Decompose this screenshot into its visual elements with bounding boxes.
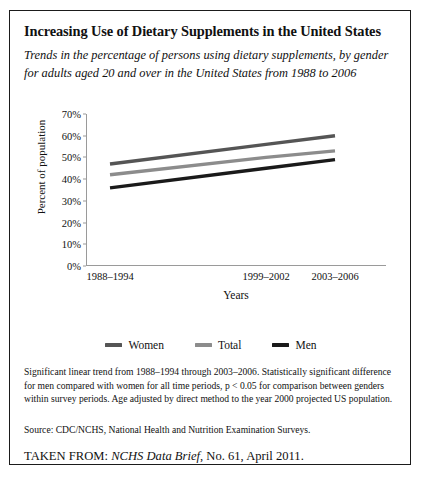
- y-axis-title: Percent of population: [35, 102, 47, 232]
- legend-label: Women: [128, 339, 163, 351]
- y-tick-label: 60%: [41, 130, 81, 141]
- y-tick-label: 50%: [41, 152, 81, 163]
- y-tick-label: 40%: [41, 174, 81, 185]
- y-tick-label: 20%: [41, 217, 81, 228]
- series-lines: [86, 114, 386, 266]
- y-tick-label: 0%: [41, 261, 81, 272]
- series-line-women: [110, 136, 335, 164]
- figure-frame: Increasing Use of Dietary Supplements in…: [9, 10, 411, 465]
- y-tick-label: 10%: [41, 239, 81, 250]
- x-tick-label: 1999–2002: [242, 271, 289, 282]
- figure-source: Source: CDC/NCHS, National Health and Nu…: [24, 423, 400, 437]
- line-chart: Percent of population 0%10%20%30%40%50%6…: [20, 101, 400, 301]
- x-tick-label: 2003–2006: [311, 271, 358, 282]
- legend-swatch-icon: [105, 343, 122, 347]
- page-title: Increasing Use of Dietary Supplements in…: [24, 23, 398, 40]
- legend-label: Men: [295, 339, 316, 351]
- legend-label: Total: [218, 339, 241, 351]
- taken-from-publication: NCHS Data Brief: [111, 449, 200, 463]
- chart-legend: WomenTotalMen: [56, 339, 366, 351]
- legend-swatch-icon: [272, 343, 289, 347]
- taken-from-line: TAKEN FROM: NCHS Data Brief, No. 61, Apr…: [24, 449, 400, 464]
- figure-subtitle: Trends in the percentage of persons usin…: [24, 47, 402, 82]
- legend-item-men[interactable]: Men: [272, 339, 316, 351]
- plot-area: 0%10%20%30%40%50%60%70% 1988–19941999–20…: [86, 114, 386, 266]
- x-axis-title: Years: [86, 289, 386, 301]
- y-tick-label: 30%: [41, 195, 81, 206]
- legend-swatch-icon: [195, 343, 212, 347]
- legend-item-women[interactable]: Women: [105, 339, 163, 351]
- x-tick-label: 1988–1994: [86, 271, 133, 282]
- legend-item-total[interactable]: Total: [195, 339, 241, 351]
- taken-from-prefix: TAKEN FROM:: [24, 449, 108, 463]
- figure-notes: Significant linear trend from 1988–1994 …: [24, 365, 400, 406]
- y-tick-label: 70%: [41, 109, 81, 120]
- taken-from-suffix: , No. 61, April 2011.: [200, 449, 304, 463]
